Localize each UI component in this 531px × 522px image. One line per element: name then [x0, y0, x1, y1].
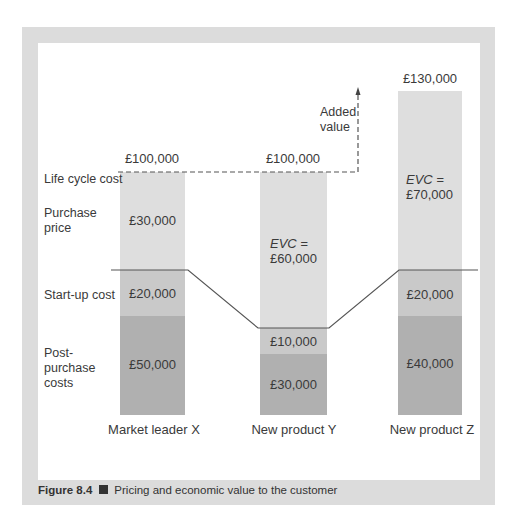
figure-title: Pricing and economic value to the custom… — [114, 484, 337, 496]
bar-x-name: Market leader X — [102, 422, 206, 438]
bar-x-total: £100,000 — [112, 151, 192, 167]
arrow-up-icon — [356, 87, 361, 95]
added-value-label-line2: value — [320, 119, 350, 135]
label-startup-cost: Start-up cost — [44, 287, 115, 303]
bar-x-startup-value: £20,000 — [120, 286, 185, 302]
bar-z-name: New product Z — [380, 422, 484, 438]
label-post-purchase-line2: purchase — [44, 360, 95, 376]
bar-y-evc-value: £60,000 — [270, 251, 317, 267]
bar-y-name: New product Y — [242, 422, 346, 438]
label-post-purchase-line3: costs — [44, 375, 73, 391]
bar-z-evc-label: EVC = — [406, 172, 444, 188]
label-purchase-price-line2: price — [44, 220, 71, 236]
label-purchase-price-line1: Purchase — [44, 205, 97, 221]
bar-y-evc-label: EVC = — [270, 236, 308, 252]
label-post-purchase-line1: Post- — [44, 345, 73, 361]
bar-y-startup-value: £10,000 — [260, 334, 327, 350]
bar-z-startup-value: £20,000 — [398, 287, 462, 303]
bar-y-postpurchase-value: £30,000 — [260, 377, 327, 393]
bar-x-purchase-value: £30,000 — [120, 213, 185, 229]
figure-number: Figure 8.4 — [38, 484, 92, 496]
label-life-cycle-cost: Life cycle cost — [44, 171, 123, 187]
square-bullet-icon — [99, 485, 108, 494]
bar-x-postpurchase-value: £50,000 — [120, 357, 185, 373]
added-value-label-line1: Added — [320, 104, 356, 120]
figure-caption: Figure 8.4Pricing and economic value to … — [38, 484, 337, 496]
bar-y-total: £100,000 — [253, 151, 333, 167]
bar-z-evc-value: £70,000 — [406, 187, 453, 203]
bar-z-postpurchase-value: £40,000 — [398, 356, 462, 372]
bar-z-total: £130,000 — [390, 71, 470, 87]
